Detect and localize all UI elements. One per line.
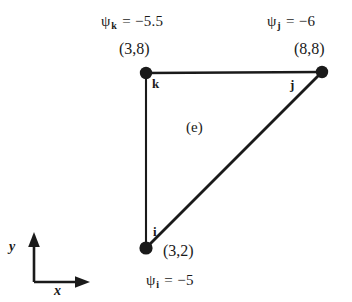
psi-subscript-i: i <box>156 279 161 290</box>
edge-k-j <box>146 72 322 73</box>
finite-element-figure: ψk = −5.5 ψj = −6 ψi = −5 (3,8) (8,8) (3… <box>0 0 352 302</box>
psi-value-j: = −6 <box>286 13 315 29</box>
node-marker-i <box>139 241 152 254</box>
node-marker-j <box>316 66 328 78</box>
psi-subscript-j: j <box>277 20 282 31</box>
psi-value-k: = −5.5 <box>122 13 163 29</box>
edge-j-i <box>146 72 322 248</box>
node-label-j: j <box>290 78 294 91</box>
node-marker-k <box>140 67 152 79</box>
node-potential-i: ψi = −5 <box>146 273 194 290</box>
psi-symbol-i: ψ <box>146 272 156 288</box>
psi-subscript-k: k <box>111 20 118 31</box>
axes-indicator <box>28 232 90 288</box>
node-coordinate-i: (3,2) <box>163 243 194 259</box>
psi-value-i: = −5 <box>164 272 193 288</box>
element-label: (e) <box>186 120 203 135</box>
node-label-i: i <box>153 225 157 238</box>
node-potential-j: ψj = −6 <box>267 14 315 31</box>
x-axis-label: x <box>54 284 61 298</box>
node-label-k: k <box>152 77 159 90</box>
y-axis-arrowhead-icon <box>28 232 40 247</box>
y-axis-label: y <box>9 240 15 254</box>
psi-symbol-j: ψ <box>267 13 277 29</box>
node-coordinate-j: (8,8) <box>294 41 325 57</box>
psi-symbol-k: ψ <box>101 13 111 29</box>
node-coordinate-k: (3,8) <box>119 41 150 57</box>
x-axis-arrowhead-icon <box>75 276 90 288</box>
node-potential-k: ψk = −5.5 <box>101 14 163 31</box>
